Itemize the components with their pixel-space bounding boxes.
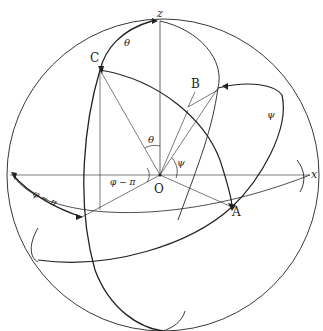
bottom-arc: [163, 311, 185, 331]
arrow-b: [222, 83, 228, 90]
point-c-label: C: [90, 52, 99, 64]
psi-inner-label: ψ: [177, 158, 185, 168]
point-b-label: B: [191, 78, 200, 90]
meridian-c: [84, 21, 163, 331]
sphere-drawing: [0, 0, 323, 331]
psi-right-label: ψ: [267, 110, 275, 120]
lower-arc: [31, 228, 38, 262]
arrow-node: [76, 214, 83, 220]
theta-inner-label: θ: [148, 135, 154, 145]
b-pointer: [188, 90, 218, 107]
origin-label: O: [154, 183, 164, 195]
euler-angle-diagram: z x C B A O θ θ ψ ψ φ − π φ − π: [0, 0, 323, 331]
line-oc: [100, 70, 160, 175]
phi-inner-label: φ − π: [110, 178, 135, 187]
line-ob: [160, 88, 218, 175]
meridian-z-b: [160, 21, 219, 220]
theta-angle-arc: [145, 145, 160, 148]
line-oa: [160, 175, 232, 207]
z-axis-label: z: [157, 8, 163, 19]
right-arc: [297, 160, 304, 192]
theta-top-label: θ: [124, 38, 130, 48]
point-a-label: A: [232, 206, 241, 218]
x-axis-label: x: [311, 169, 317, 180]
